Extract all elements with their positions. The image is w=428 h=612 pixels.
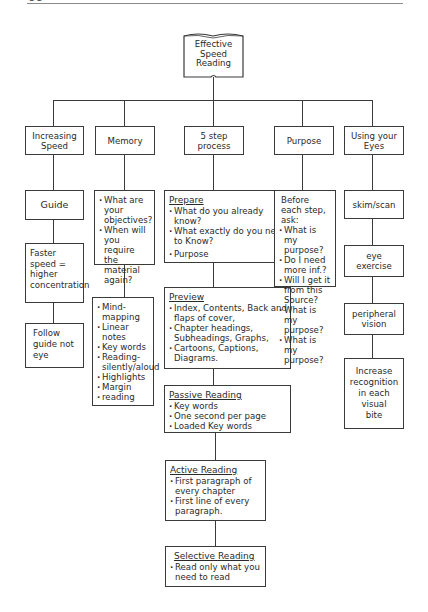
- list-item: Loaded Key words: [169, 421, 287, 431]
- node-using-your-eyes: Using your Eyes: [344, 126, 404, 155]
- selective-reading-list: Read only what you need to read: [170, 562, 262, 582]
- link-c5-4: [372, 334, 373, 358]
- node-guide: Guide: [25, 190, 84, 220]
- drop-increasing-speed: [53, 100, 54, 126]
- active-reading-heading: Active Reading: [170, 465, 262, 475]
- node-skim-scan: skim/scan: [344, 190, 404, 219]
- list-item: Cartoons, Captions, Diagrams.: [169, 343, 287, 363]
- node-memory-techniques: Mind-mapping Linear notes Key words Read…: [92, 297, 154, 406]
- preview-heading: Preview: [169, 292, 287, 302]
- node-5-step-process: 5 step process: [184, 126, 244, 155]
- list-item: What is my purpose?: [279, 305, 332, 335]
- list-item: What are your objectives?: [99, 195, 151, 225]
- running-title: SPEED READING: [316, 0, 401, 2]
- list-item: What is my purpose?: [279, 335, 332, 365]
- passive-reading-heading: Passive Reading: [169, 390, 287, 400]
- node-increasing-speed: Increasing Speed: [25, 126, 84, 155]
- node-active-reading: Active Reading First paragraph of every …: [165, 460, 266, 521]
- list-item: First line of every paragraph.: [170, 496, 262, 516]
- node-passive-reading: Passive Reading Key words One second per…: [164, 385, 291, 433]
- root-stem: [213, 77, 214, 101]
- node-memory-questions: What are your objectives? When will you …: [94, 190, 155, 265]
- page-header: 58 SPEED READING: [27, 0, 403, 4]
- list-item: What do you already know?: [169, 206, 287, 226]
- prepare-heading: Prepare: [169, 195, 287, 205]
- link-c4-1: [302, 154, 303, 190]
- drop-5-step: [213, 100, 214, 126]
- node-purpose-questions: Before each step, ask: What is my purpos…: [274, 190, 336, 287]
- prepare-list: What do you already know? What exactly d…: [169, 206, 287, 259]
- drop-eyes: [372, 100, 373, 126]
- preview-list: Index, Contents, Back and flaps of cover…: [169, 303, 287, 363]
- list-item: Highlights: [97, 372, 150, 382]
- active-reading-list: First paragraph of every chapter First l…: [170, 476, 262, 516]
- link-c3-4: [215, 432, 216, 460]
- node-faster-speed: Faster speed = higher concentration: [25, 243, 84, 303]
- node-purpose: Purpose: [274, 126, 334, 155]
- node-follow-guide: Follow guide not eye: [25, 323, 84, 368]
- list-item: Mind-mapping: [97, 302, 150, 322]
- selective-reading-heading: Selective Reading: [170, 551, 262, 561]
- list-item: Chapter headings, Subheadings, Graphs,: [169, 323, 287, 343]
- link-c2-1: [124, 154, 125, 190]
- link-c3-5: [215, 520, 216, 546]
- purpose-list: What is my purpose? Do I need more inf.?…: [279, 225, 332, 365]
- root-node-book: Effective Speed Reading: [183, 32, 244, 78]
- node-increase-recognition: Increase recognition in each visual bite: [344, 358, 404, 429]
- link-c3-3: [213, 368, 214, 385]
- passive-reading-list: Key words One second per page Loaded Key…: [169, 401, 287, 431]
- list-item: Read only what you need to read: [170, 562, 262, 582]
- link-c3-1: [213, 154, 214, 190]
- list-item: Index, Contents, Back and flaps of cover…: [169, 303, 287, 323]
- list-item: Will I get it from this Source?: [279, 275, 332, 305]
- link-c1-2: [53, 220, 54, 243]
- root-label: Effective Speed Reading: [183, 40, 244, 69]
- link-c1-1: [53, 154, 54, 190]
- link-c1-3: [53, 302, 54, 323]
- list-item: Key words: [97, 342, 150, 352]
- link-c5-1: [372, 154, 373, 190]
- list-item: Linear notes: [97, 322, 150, 342]
- drop-memory: [124, 100, 125, 126]
- link-c5-3: [372, 276, 373, 303]
- list-item: Margin: [97, 382, 150, 392]
- node-eye-exercise: eye exercise: [344, 245, 404, 277]
- list-item: One second per page: [169, 411, 287, 421]
- link-c5-2: [372, 218, 373, 245]
- list-item: reading: [97, 392, 150, 402]
- node-peripheral-vision: peripheral vision: [344, 303, 404, 335]
- drop-purpose: [302, 100, 303, 126]
- list-item: What exactly do you need to Know?: [169, 226, 287, 246]
- list-item: Key words: [169, 401, 287, 411]
- list-item: Reading-silently/aloud: [97, 352, 150, 372]
- link-c3-2: [213, 262, 214, 287]
- node-memory: Memory: [95, 126, 155, 155]
- list-item: When will you require the material again…: [99, 225, 151, 285]
- page-number: 58: [29, 0, 44, 3]
- memory-questions-list: What are your objectives? When will you …: [99, 195, 151, 285]
- list-item: Purpose: [169, 249, 287, 259]
- node-prepare: Prepare What do you already know? What e…: [164, 190, 291, 263]
- node-selective-reading: Selective Reading Read only what you nee…: [165, 546, 266, 587]
- purpose-intro: Before each step, ask:: [279, 195, 332, 225]
- node-preview: Preview Index, Contents, Back and flaps …: [164, 287, 291, 369]
- memory-techniques-list: Mind-mapping Linear notes Key words Read…: [97, 302, 150, 402]
- list-item: First paragraph of every chapter: [170, 476, 262, 496]
- list-item: What is my purpose?: [279, 225, 332, 255]
- list-item: Do I need more inf.?: [279, 255, 332, 275]
